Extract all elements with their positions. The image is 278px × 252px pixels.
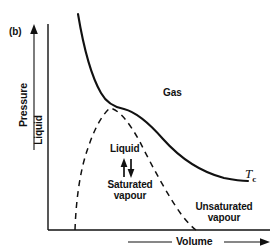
region-label-liquid: Liquid [110, 144, 139, 155]
region-label-unsaturated-vapour-line2: vapour [192, 213, 256, 224]
region-label-gas: Gas [163, 88, 182, 99]
critical-isotherm-label: Tc [245, 167, 256, 184]
y-axis-title: Pressure [18, 70, 29, 140]
equilibrium-arrows [121, 158, 135, 178]
region-label-saturated-vapour: Saturated vapour [101, 180, 159, 201]
region-label-unsaturated-vapour-line1: Unsaturated [195, 201, 252, 212]
saturation-dome-curve [75, 108, 196, 230]
region-label-saturated-vapour-line1: Saturated [107, 179, 152, 190]
phase-diagram-figure: (b) Pressure Volume Liquid Gas Liquid Sa… [0, 0, 278, 252]
region-label-saturated-vapour-line2: vapour [101, 191, 159, 202]
region-label-unsaturated-vapour: Unsaturated vapour [192, 202, 256, 223]
panel-tag: (b) [9, 27, 21, 38]
x-axis-title: Volume [176, 236, 213, 247]
critical-isotherm-subscript: c [252, 174, 256, 184]
region-label-liquid-vertical: Liquid [34, 106, 45, 154]
